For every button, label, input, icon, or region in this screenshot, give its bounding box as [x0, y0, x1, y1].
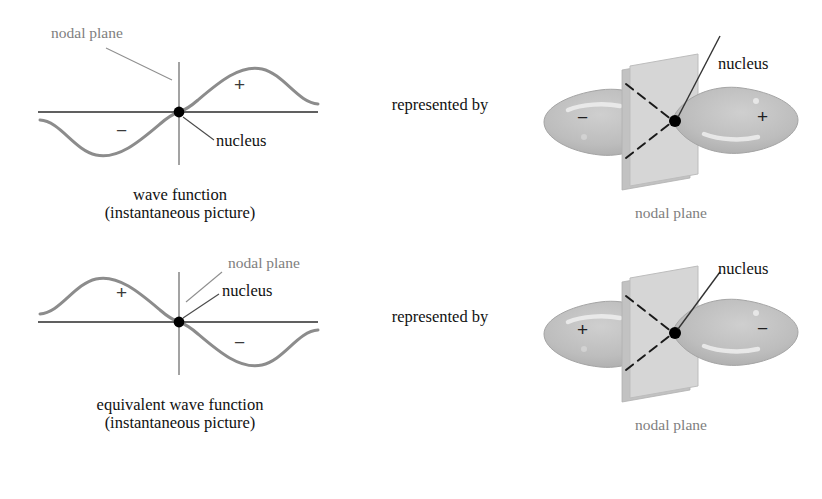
- lobe-left-speckle: [581, 346, 587, 352]
- represented-by-label: represented by: [360, 96, 520, 114]
- nodal-plane-caption: nodal plane: [520, 204, 822, 221]
- nucleus-label: nucleus: [216, 132, 266, 150]
- nucleus-label: nucleus: [222, 282, 272, 300]
- lobe-right-speckle: [753, 310, 759, 316]
- connector-panel-bottom: represented by: [360, 250, 520, 499]
- figure-row-bottom: nodal plane nucleus + − equivalent wave …: [0, 250, 822, 499]
- nodal-plane-leader-line: [106, 48, 172, 80]
- nucleus-dot: [669, 327, 681, 339]
- nucleus-leader-line: [183, 117, 214, 140]
- wave-function-panel-top: nodal plane nucleus + − wave function (i…: [0, 0, 360, 249]
- orbital-panel-top: nucleus − + nodal plane: [520, 0, 822, 249]
- wave-function-caption: equivalent wave function (instantaneous …: [0, 396, 360, 433]
- nucleus-dot: [669, 115, 681, 127]
- nucleus-dot: [174, 107, 185, 118]
- nodal-plane-label: nodal plane: [228, 254, 300, 271]
- caption-line-1: wave function: [0, 186, 360, 204]
- caption-line-1: equivalent wave function: [0, 396, 360, 414]
- nucleus-leader-line: [183, 294, 219, 318]
- wave-function-panel-bottom: nodal plane nucleus + − equivalent wave …: [0, 250, 360, 499]
- figure-root: nodal plane nucleus + − wave function (i…: [0, 0, 822, 499]
- wave-function-caption: wave function (instantaneous picture): [0, 186, 360, 223]
- nucleus-label: nucleus: [718, 55, 768, 73]
- lobe-right-sign-label: +: [757, 106, 768, 127]
- connector-panel-top: represented by: [360, 0, 520, 249]
- lobe-right-sign-label: −: [757, 318, 768, 339]
- nodal-plane-label: nodal plane: [51, 24, 123, 41]
- lobe-left-speckle: [581, 134, 587, 140]
- caption-line-2: (instantaneous picture): [0, 204, 360, 222]
- nodal-plane-caption: nodal plane: [520, 416, 822, 433]
- lobe-right-speckle: [753, 98, 759, 104]
- negative-sign-label: −: [116, 120, 127, 141]
- caption-line-2: (instantaneous picture): [0, 414, 360, 432]
- represented-by-label: represented by: [360, 308, 520, 326]
- nodal-plane-leader-line: [186, 272, 222, 302]
- figure-row-top: nodal plane nucleus + − wave function (i…: [0, 0, 822, 249]
- negative-sign-label: −: [234, 332, 245, 353]
- lobe-left-sign-label: +: [577, 319, 588, 340]
- positive-sign-label: +: [116, 282, 127, 303]
- wave-function-plot-bottom: [0, 250, 360, 499]
- orbital-panel-bottom: nucleus + − nodal plane: [520, 250, 822, 499]
- orbital-diagram-bottom: [520, 250, 822, 499]
- positive-sign-label: +: [234, 74, 245, 95]
- lobe-left-sign-label: −: [577, 107, 588, 128]
- nucleus-dot: [174, 317, 185, 328]
- nucleus-label: nucleus: [718, 260, 768, 278]
